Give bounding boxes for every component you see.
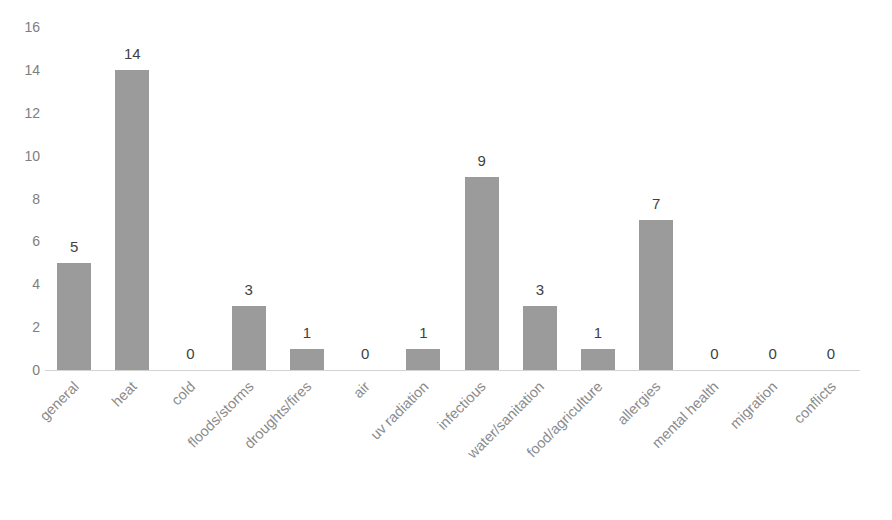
- bar[interactable]: [57, 263, 91, 370]
- bar-series: 514031019317000: [45, 0, 860, 371]
- x-axis-category-label: mental health: [685, 379, 743, 393]
- y-axis-tick-label: 12: [6, 106, 40, 120]
- x-axis-category-label: conflicts: [802, 379, 860, 393]
- x-axis-category-text: cold: [169, 379, 198, 408]
- bar-column[interactable]: 0: [802, 0, 860, 371]
- bar-column[interactable]: 5: [45, 0, 103, 371]
- y-axis-tick-label: 0: [6, 363, 40, 377]
- bar-value-label: 1: [569, 325, 627, 340]
- x-axis-category-label: allergies: [627, 379, 685, 393]
- bar[interactable]: [115, 70, 149, 370]
- x-axis-category-label: migration: [744, 379, 802, 393]
- bar-column[interactable]: 7: [627, 0, 685, 371]
- bar[interactable]: [406, 349, 440, 370]
- bar-value-label: 0: [336, 346, 394, 361]
- y-axis-tick-label: 16: [6, 20, 40, 34]
- bar-value-label: 3: [511, 282, 569, 297]
- x-axis-category-labels: generalheatcoldfloods/stormsdroughts/fir…: [45, 371, 860, 520]
- bar-column[interactable]: 0: [336, 0, 394, 371]
- y-axis-tick-label: 14: [6, 63, 40, 77]
- y-axis-ticks: 1614121086420: [0, 0, 40, 520]
- bar-value-label: 0: [802, 346, 860, 361]
- bar-value-label: 1: [278, 325, 336, 340]
- bar-value-label: 7: [627, 196, 685, 211]
- bar-column[interactable]: 0: [161, 0, 219, 371]
- x-axis-category-label: general: [45, 379, 103, 393]
- bar-value-label: 0: [685, 346, 743, 361]
- x-axis-category-label: air: [336, 379, 394, 393]
- bar-value-label: 0: [161, 346, 219, 361]
- bar-column[interactable]: 0: [744, 0, 802, 371]
- bar-column[interactable]: 3: [220, 0, 278, 371]
- y-axis-tick-label: 2: [6, 320, 40, 334]
- bar-column[interactable]: 9: [453, 0, 511, 371]
- bar[interactable]: [523, 306, 557, 370]
- y-axis-tick-label: 8: [6, 192, 40, 206]
- x-axis-category-label: infectious: [453, 379, 511, 393]
- bar-value-label: 5: [45, 239, 103, 254]
- x-axis-category-label: floods/storms: [220, 379, 278, 393]
- x-axis-category-text: air: [351, 379, 373, 401]
- bar-value-label: 1: [394, 325, 452, 340]
- bar-column[interactable]: 1: [569, 0, 627, 371]
- bar-value-label: 14: [103, 46, 161, 61]
- bar[interactable]: [581, 349, 615, 370]
- bar-column[interactable]: 3: [511, 0, 569, 371]
- bar-chart: 1614121086420 514031019317000 generalhea…: [0, 0, 892, 520]
- bar-column[interactable]: 14: [103, 0, 161, 371]
- bar-column[interactable]: 1: [278, 0, 336, 371]
- x-axis-category-label: water/sanitation: [511, 379, 569, 393]
- x-axis-category-text: heat: [109, 379, 139, 409]
- bar-value-label: 0: [744, 346, 802, 361]
- y-axis-tick-label: 10: [6, 149, 40, 163]
- x-axis-category-label: droughts/fires: [278, 379, 336, 393]
- bar[interactable]: [465, 177, 499, 370]
- bar[interactable]: [232, 306, 266, 370]
- x-axis-category-label: uv radiation: [394, 379, 452, 393]
- x-axis-category-label: food/agriculture: [569, 379, 627, 393]
- x-axis-category-text: general: [37, 379, 81, 423]
- x-axis-category-label: cold: [161, 379, 219, 393]
- bar-value-label: 9: [453, 153, 511, 168]
- bar-column[interactable]: 0: [685, 0, 743, 371]
- bar-value-label: 3: [220, 282, 278, 297]
- bar[interactable]: [290, 349, 324, 370]
- y-axis-tick-label: 4: [6, 277, 40, 291]
- bar[interactable]: [639, 220, 673, 370]
- x-axis-category-label: heat: [103, 379, 161, 393]
- y-axis-tick-label: 6: [6, 234, 40, 248]
- bar-column[interactable]: 1: [394, 0, 452, 371]
